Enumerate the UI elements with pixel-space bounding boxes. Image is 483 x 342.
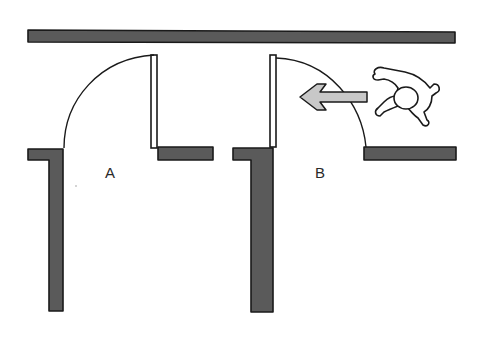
door-b-label: B: [315, 164, 325, 181]
corridor-wall-top: [28, 30, 455, 43]
door-b-leaf: [270, 55, 276, 147]
door-a-label: A: [105, 164, 115, 181]
movement-arrow-icon: [300, 84, 367, 110]
wall-a-left-corner: [28, 149, 63, 311]
person-top-view-icon: [373, 67, 439, 125]
wall-b-left-corner: [233, 148, 273, 312]
wall-b-right-stub: [364, 147, 456, 160]
door-swing-diagram: A B: [0, 0, 483, 342]
speck: [75, 185, 76, 186]
wall-a-right-stub: [158, 147, 213, 160]
door-a-leaf: [151, 55, 157, 148]
door-a-swing-arc: [64, 55, 154, 148]
